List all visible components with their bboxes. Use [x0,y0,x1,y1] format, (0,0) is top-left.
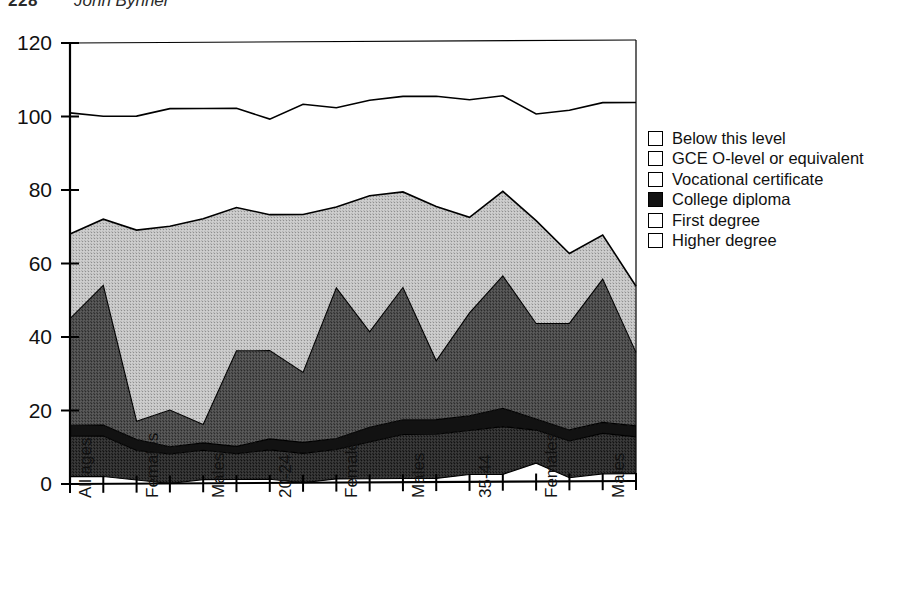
legend-swatch-medium-gray [648,172,663,187]
legend-label: Higher degree [672,231,777,250]
x-axis-tick-label: Females [343,433,360,498]
x-axis-tick-label: Males [410,453,427,498]
y-axis-tick-label: 40 [4,326,52,347]
legend-item[interactable]: College diploma [648,190,910,211]
chart-legend: Below this levelGCE O-level or equivalen… [648,128,910,251]
legend-label: GCE O-level or equivalent [672,149,864,168]
stacked-area-chart-figure: 020406080100120 All agesFemalesMales20-2… [0,0,920,606]
x-axis-tick-label: Males [210,453,227,498]
legend-label: College diploma [672,190,790,209]
legend-item[interactable]: Higher degree [648,231,910,252]
legend-item[interactable]: First degree [648,210,910,231]
x-axis-tick-label: 35-44 [477,455,494,498]
legend-label: First degree [672,211,760,230]
y-axis-tick-label: 0 [4,473,52,494]
x-axis-tick-label: Females [144,433,161,498]
x-axis-tick-label: All ages [77,438,94,498]
x-axis-tick-label: 20-24 [277,455,294,498]
legend-swatch-near-black [648,192,663,207]
legend-swatch-white [648,233,663,248]
legend-item[interactable]: Vocational certificate [648,169,910,190]
chart-areas-group [70,96,636,484]
legend-label: Below this level [672,129,786,148]
legend-label: Vocational certificate [672,170,823,189]
legend-swatch-dark-gray [648,213,663,228]
legend-item[interactable]: GCE O-level or equivalent [648,149,910,170]
y-axis-tick-label: 80 [4,179,52,200]
x-axis-tick-label: Males [610,453,627,498]
legend-item[interactable]: Below this level [648,128,910,149]
y-axis-tick-label: 60 [4,253,52,274]
plot-frame-top [70,40,636,43]
y-axis-tick-label: 120 [4,32,52,53]
chart-plot-svg [0,0,920,606]
x-axis-tick-label: Females [543,433,560,498]
y-axis-tick-label: 100 [4,106,52,127]
legend-swatch-white [648,131,663,146]
y-axis-tick-label: 20 [4,400,52,421]
legend-swatch-light-gray [648,151,663,166]
